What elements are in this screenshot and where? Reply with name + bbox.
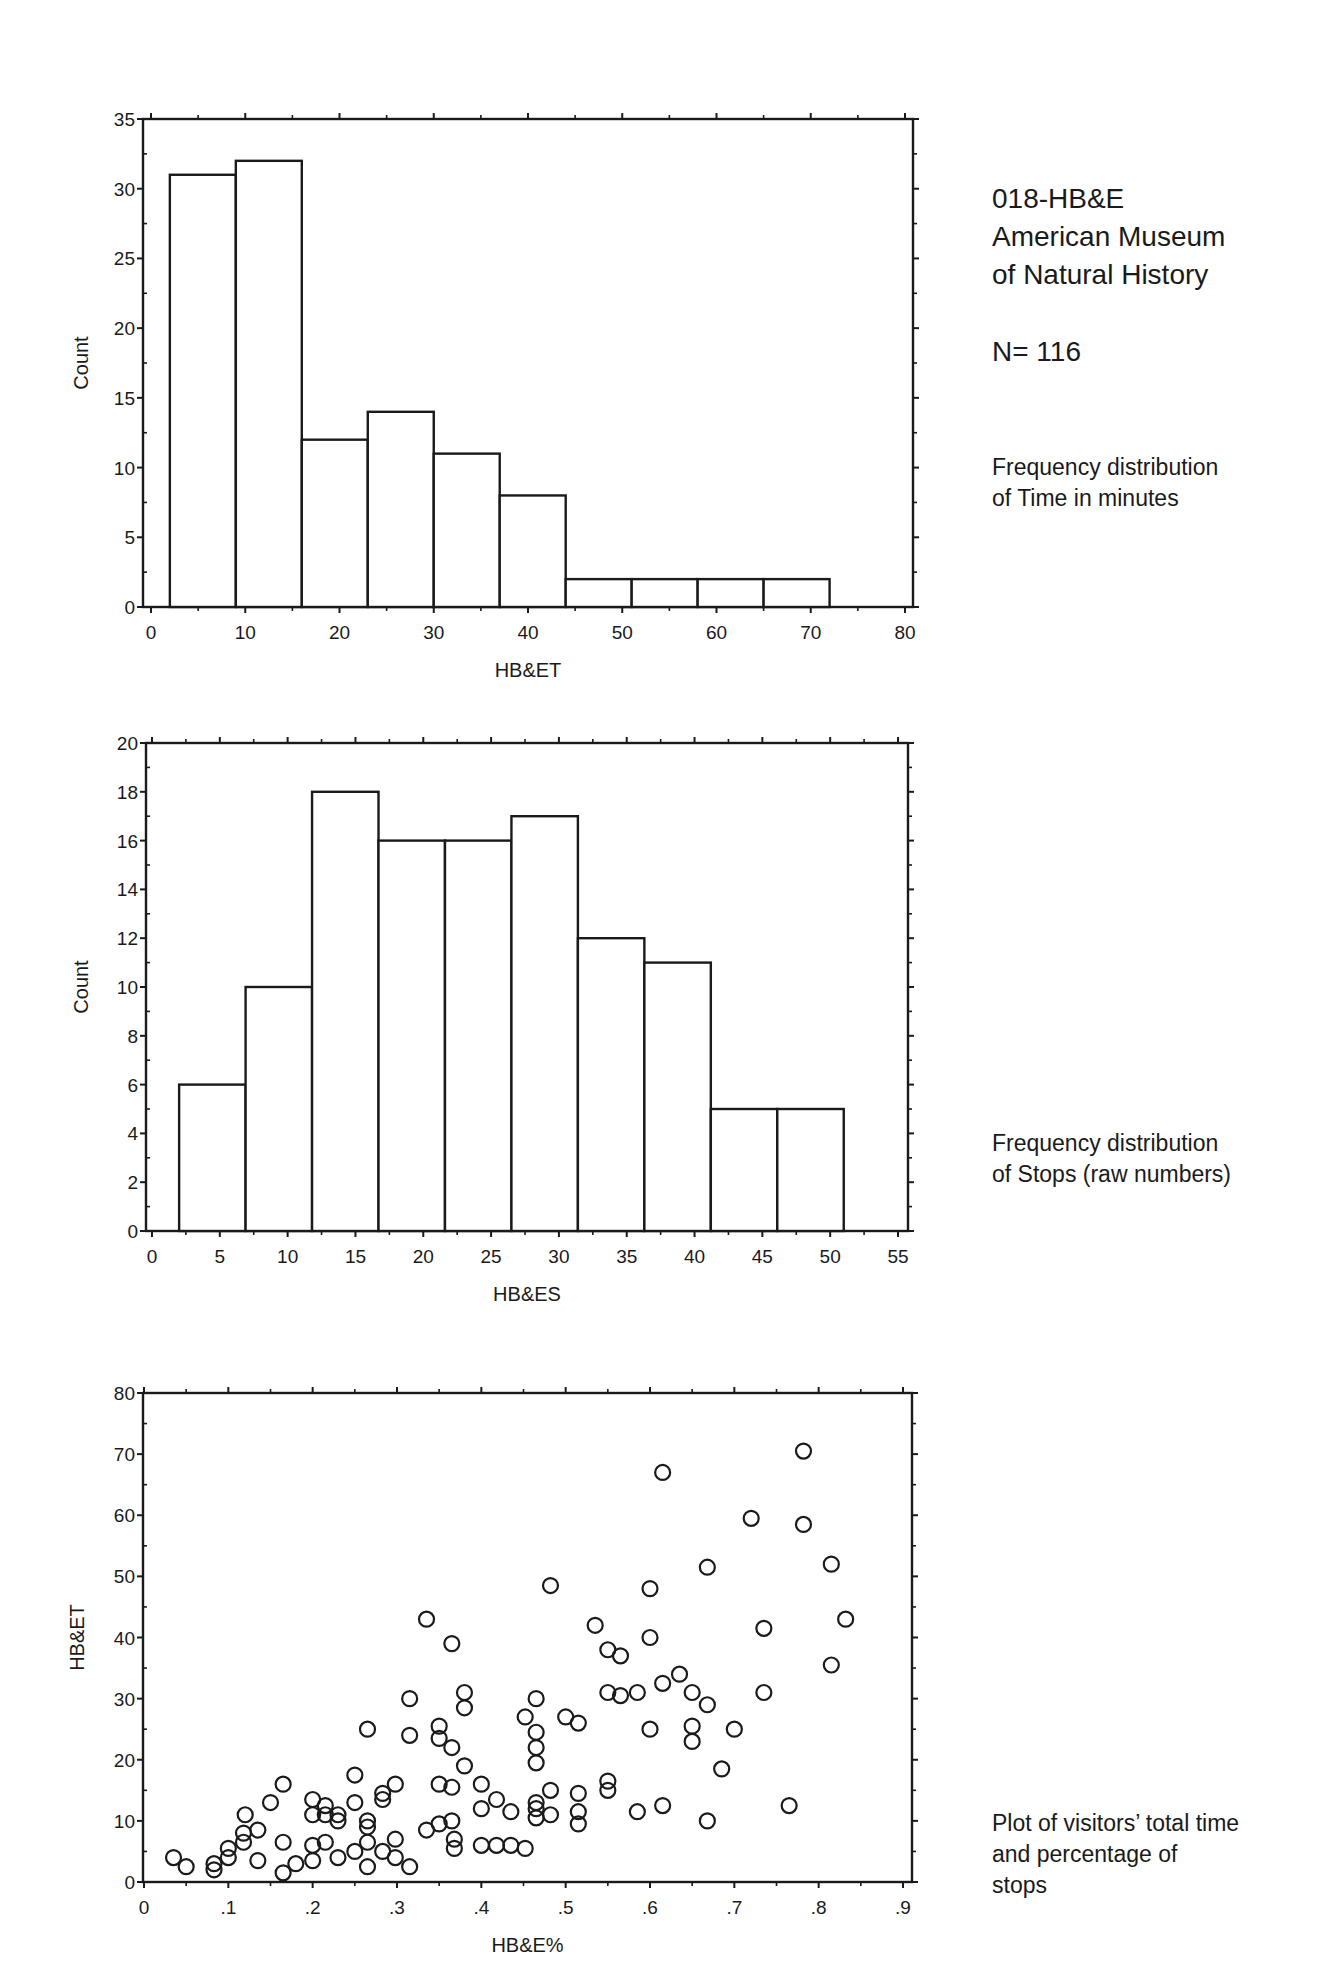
scatter-point	[503, 1838, 518, 1853]
y-tick-label: 10	[114, 1811, 135, 1832]
scatter-point	[503, 1804, 518, 1819]
institution-line-2: of Natural History	[992, 256, 1225, 294]
scatter-point	[685, 1685, 700, 1700]
scatter-point	[643, 1722, 658, 1737]
scatter-point	[489, 1792, 504, 1807]
scatter-point	[685, 1719, 700, 1734]
scatter-point	[347, 1795, 362, 1810]
stops-histogram-caption: Frequency distribution of Stops (raw num…	[992, 1128, 1231, 1190]
sample-size: N= 116	[992, 333, 1081, 371]
scatter-point	[419, 1612, 434, 1627]
scatter-point	[655, 1465, 670, 1480]
scatter-point	[179, 1859, 194, 1874]
scatter-point	[288, 1856, 303, 1871]
scatter-point	[529, 1810, 544, 1825]
scatter-point	[402, 1859, 417, 1874]
scatter-point	[388, 1850, 403, 1865]
scatter-point	[655, 1676, 670, 1691]
scatter-point	[714, 1761, 729, 1776]
scatter-point	[543, 1578, 558, 1593]
scatter-point	[474, 1838, 489, 1853]
scatter-point	[700, 1697, 715, 1712]
x-tick-label: .5	[558, 1897, 574, 1918]
study-code: 018-HB&E	[992, 180, 1225, 218]
x-tick-label: .9	[895, 1897, 911, 1918]
scatter-point	[236, 1835, 251, 1850]
scatter-point	[796, 1517, 811, 1532]
scatter-point	[672, 1667, 687, 1682]
scatter-point	[824, 1557, 839, 1572]
y-tick-label: 30	[114, 1689, 135, 1710]
scatter-point	[727, 1722, 742, 1737]
scatter-svg: 0.1.2.3.4.5.6.7.8.901020304050607080HB&E…	[0, 0, 1336, 1981]
scatter-point	[457, 1685, 472, 1700]
time-vs-stops-scatter: 0.1.2.3.4.5.6.7.8.901020304050607080HB&E…	[0, 0, 1336, 1981]
x-tick-label: .7	[726, 1897, 742, 1918]
time-histogram-caption: Frequency distribution of Time in minute…	[992, 452, 1218, 514]
scatter-point	[238, 1807, 253, 1822]
scatter-point	[529, 1740, 544, 1755]
scatter-point	[744, 1511, 759, 1526]
scatter-point	[444, 1740, 459, 1755]
scatter-point	[655, 1798, 670, 1813]
scatter-point	[360, 1835, 375, 1850]
scatter-point	[347, 1768, 362, 1783]
y-tick-label: 50	[114, 1566, 135, 1587]
scatter-point	[571, 1716, 586, 1731]
scatter-point	[543, 1807, 558, 1822]
x-tick-label: .4	[473, 1897, 489, 1918]
scatter-point	[221, 1841, 236, 1856]
caption-line: Frequency distribution	[992, 1128, 1231, 1159]
scatter-point	[700, 1813, 715, 1828]
x-tick-label: .3	[389, 1897, 405, 1918]
scatter-point	[782, 1798, 797, 1813]
institution-line-1: American Museum	[992, 218, 1225, 256]
scatter-point	[529, 1755, 544, 1770]
y-tick-label: 80	[114, 1383, 135, 1404]
x-axis-label: HB&E%	[491, 1934, 563, 1956]
x-tick-label: .6	[642, 1897, 658, 1918]
y-axis-label: HB&ET	[66, 1604, 88, 1671]
scatter-point	[360, 1722, 375, 1737]
scatter-point	[529, 1691, 544, 1706]
scatter-point	[600, 1783, 615, 1798]
y-tick-label: 70	[114, 1444, 135, 1465]
scatter-point	[250, 1823, 265, 1838]
scatter-point	[457, 1700, 472, 1715]
scatter-point	[489, 1838, 504, 1853]
caption-line: of Stops (raw numbers)	[992, 1159, 1231, 1190]
scatter-point	[444, 1636, 459, 1651]
scatter-point	[330, 1850, 345, 1865]
scatter-point	[756, 1621, 771, 1636]
scatter-point	[630, 1685, 645, 1700]
caption-line: of Time in minutes	[992, 483, 1218, 514]
scatter-point	[457, 1758, 472, 1773]
scatter-point	[388, 1777, 403, 1792]
scatter-point	[518, 1841, 533, 1856]
y-tick-label: 0	[124, 1872, 135, 1893]
scatter-point	[402, 1728, 417, 1743]
scatter-point	[700, 1560, 715, 1575]
scatter-point	[588, 1618, 603, 1633]
scatter-point	[613, 1648, 628, 1663]
scatter-point	[305, 1853, 320, 1868]
scatter-point	[824, 1658, 839, 1673]
y-tick-label: 60	[114, 1505, 135, 1526]
scatter-point	[250, 1853, 265, 1868]
scatter-point	[388, 1832, 403, 1847]
scatter-point	[756, 1685, 771, 1700]
scatter-point	[529, 1725, 544, 1740]
caption-line: stops	[992, 1870, 1239, 1901]
scatter-point	[643, 1581, 658, 1596]
caption-line: and percentage of	[992, 1839, 1239, 1870]
scatter-point	[518, 1709, 533, 1724]
y-tick-label: 40	[114, 1628, 135, 1649]
caption-line: Plot of visitors’ total time	[992, 1808, 1239, 1839]
scatter-point	[447, 1841, 462, 1856]
scatter-point	[685, 1734, 700, 1749]
scatter-point	[360, 1859, 375, 1874]
scatter-point	[643, 1630, 658, 1645]
scatter-point	[276, 1835, 291, 1850]
x-tick-label: .1	[220, 1897, 236, 1918]
study-title: 018-HB&E American Museum of Natural Hist…	[992, 180, 1225, 294]
